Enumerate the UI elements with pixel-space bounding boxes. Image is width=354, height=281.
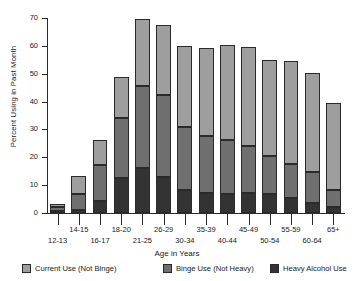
x-axis-tick-label: 45-49 xyxy=(229,225,269,234)
bar-26-29[interactable] xyxy=(156,25,171,213)
bar-65+[interactable] xyxy=(326,103,341,213)
y-axis-tick-label: 40 xyxy=(30,98,38,106)
bar-segment xyxy=(135,19,150,86)
x-axis-tick-label: 60-64 xyxy=(292,236,332,245)
x-axis-tick xyxy=(249,214,250,225)
bar-segment xyxy=(284,164,299,199)
x-axis-tick xyxy=(227,214,228,225)
bar-segment xyxy=(177,127,192,191)
x-axis-tick xyxy=(142,214,143,225)
bar-18-20[interactable] xyxy=(114,77,129,213)
x-axis-tick-label: 12-13 xyxy=(38,236,78,245)
x-axis-tick xyxy=(270,214,271,225)
x-axis-tick-label: 16-17 xyxy=(80,236,120,245)
bar-segment xyxy=(71,210,86,213)
bar-segment xyxy=(305,203,320,213)
x-axis-tick-label: 35-39 xyxy=(186,225,226,234)
bar-40-44[interactable] xyxy=(220,45,235,213)
bar-30-34[interactable] xyxy=(177,46,192,213)
bars-container xyxy=(47,18,344,213)
bar-segment xyxy=(93,165,108,201)
bar-segment xyxy=(93,140,108,165)
y-axis-tick-label: 60 xyxy=(30,42,38,50)
x-axis-tick xyxy=(333,214,334,225)
bar-segment xyxy=(241,146,256,193)
y-axis-tick-label: 70 xyxy=(30,14,38,22)
bar-50-54[interactable] xyxy=(262,60,277,213)
bar-35-39[interactable] xyxy=(199,48,214,213)
x-axis-tick-label: 55-59 xyxy=(271,225,311,234)
bar-segment xyxy=(156,95,171,177)
bar-segment xyxy=(262,156,277,194)
y-axis-title: Percent Using in Past Month xyxy=(9,22,18,172)
bar-segment xyxy=(71,194,86,210)
chart-legend: Current Use (Not Binge) Binge Use (Not H… xyxy=(0,264,354,278)
bar-segment xyxy=(241,47,256,146)
bar-12-13[interactable] xyxy=(50,204,65,213)
legend-item-heavy-use: Heavy Alcohol Use xyxy=(270,264,347,273)
bar-segment xyxy=(71,176,86,193)
x-axis-tick-label: 50-54 xyxy=(250,236,290,245)
legend-label-binge-use: Binge Use (Not Heavy) xyxy=(176,264,254,273)
bar-segment xyxy=(220,140,235,193)
bar-segment xyxy=(220,194,235,214)
bar-segment xyxy=(326,103,341,190)
x-axis-tick-label: 30-34 xyxy=(165,236,205,245)
bar-segment xyxy=(135,168,150,213)
x-axis-tick-label: 21-25 xyxy=(122,236,162,245)
bar-45-49[interactable] xyxy=(241,47,256,213)
bar-segment xyxy=(326,190,341,207)
bar-segment xyxy=(156,177,171,213)
x-axis-tick-label: 65+ xyxy=(313,225,353,234)
x-axis-title: Age in Years xyxy=(0,249,354,258)
legend-swatch-heavy-use xyxy=(270,264,279,273)
bar-segment xyxy=(135,86,150,169)
legend-swatch-binge-use xyxy=(163,264,172,273)
bar-16-17[interactable] xyxy=(93,140,108,213)
bar-segment xyxy=(241,193,256,213)
x-axis-tick xyxy=(291,214,292,225)
y-axis-tick-label: 30 xyxy=(30,125,38,133)
bar-segment xyxy=(114,178,129,213)
bar-segment xyxy=(199,48,214,137)
bar-segment xyxy=(284,61,299,164)
x-axis-line xyxy=(47,213,345,214)
bar-segment xyxy=(93,201,108,213)
x-axis-tick xyxy=(312,214,313,225)
bar-21-25[interactable] xyxy=(135,19,150,213)
bar-segment xyxy=(305,172,320,203)
x-axis-tick xyxy=(58,214,59,225)
bar-60-64[interactable] xyxy=(305,73,320,213)
bar-segment xyxy=(305,73,320,172)
y-axis-tick-label: 10 xyxy=(30,181,38,189)
x-axis-tick-label: 14-15 xyxy=(59,225,99,234)
bar-segment xyxy=(220,45,235,140)
x-axis-tick-label: 40-44 xyxy=(207,236,247,245)
bar-segment xyxy=(177,46,192,127)
legend-swatch-current-use xyxy=(22,264,31,273)
bar-segment xyxy=(262,194,277,213)
x-axis-tick xyxy=(206,214,207,225)
x-axis-tick-label: 18-20 xyxy=(101,225,141,234)
x-axis-tick xyxy=(79,214,80,225)
bar-14-15[interactable] xyxy=(71,176,86,213)
bar-segment xyxy=(199,136,214,192)
x-axis-tick xyxy=(121,214,122,225)
bar-segment xyxy=(284,198,299,213)
x-axis-tick-label: 26-29 xyxy=(144,225,184,234)
bar-segment xyxy=(199,193,214,213)
legend-item-current-use: Current Use (Not Binge) xyxy=(22,264,116,273)
bar-segment xyxy=(50,211,65,213)
x-axis-tick xyxy=(100,214,101,225)
bar-segment xyxy=(177,190,192,213)
stacked-bar-chart: Percent Using in Past Month 010203040506… xyxy=(0,0,354,281)
x-axis-tick xyxy=(164,214,165,225)
legend-label-heavy-use: Heavy Alcohol Use xyxy=(283,264,347,273)
y-axis-tick-label: 0 xyxy=(34,209,38,217)
bar-segment xyxy=(156,25,171,95)
legend-label-current-use: Current Use (Not Binge) xyxy=(35,264,116,273)
bar-segment xyxy=(262,60,277,156)
bar-55-59[interactable] xyxy=(284,61,299,213)
y-axis-tick-label: 50 xyxy=(30,70,38,78)
legend-item-binge-use: Binge Use (Not Heavy) xyxy=(163,264,254,273)
